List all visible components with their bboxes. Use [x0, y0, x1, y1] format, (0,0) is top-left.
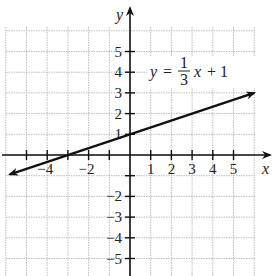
equation-annotation: y = 1 3 x + 1: [148, 54, 258, 88]
svg-text:5: 5: [230, 161, 238, 177]
y-axis-label: y: [114, 6, 124, 24]
eq-plus-one: + 1: [207, 63, 228, 80]
line-graph: −4−21234554321−2−3−4−5 x y y = 1 3 x + 1: [0, 0, 275, 276]
svg-text:−2: −2: [106, 188, 122, 204]
svg-text:−2: −2: [79, 161, 95, 177]
svg-text:−5: −5: [106, 251, 122, 267]
eq-y: y: [148, 63, 158, 81]
svg-text:−3: −3: [106, 209, 122, 225]
svg-text:−4: −4: [106, 230, 122, 246]
svg-text:1: 1: [147, 161, 155, 177]
svg-text:5: 5: [115, 44, 123, 60]
svg-text:2: 2: [115, 106, 123, 122]
x-axis-label: x: [261, 160, 269, 177]
data-line: [10, 93, 254, 174]
svg-text:2: 2: [168, 161, 176, 177]
eq-denominator: 3: [180, 71, 188, 88]
eq-x: x: [193, 63, 201, 80]
svg-text:3: 3: [188, 161, 196, 177]
svg-text:4: 4: [209, 161, 217, 177]
axes: [2, 8, 270, 276]
eq-equals: =: [163, 63, 172, 80]
svg-text:4: 4: [115, 64, 123, 80]
eq-numerator: 1: [180, 54, 188, 71]
svg-text:3: 3: [115, 85, 123, 101]
